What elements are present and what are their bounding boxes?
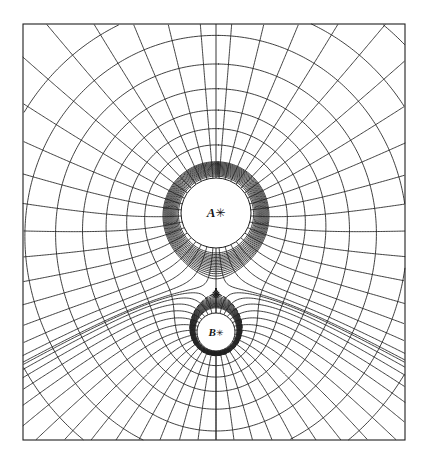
charge-b-label: B✳ — [209, 326, 224, 338]
charge-a-letter: A — [207, 205, 216, 220]
neutral-point-core — [215, 293, 218, 296]
charge-b-star-icon: ✳ — [216, 328, 224, 338]
field-diagram-figure: A✳ B✳ — [0, 0, 430, 465]
field-diagram-canvas — [0, 0, 430, 465]
charge-a-label: A✳ — [207, 205, 226, 221]
charge-a-star-icon: ✳ — [215, 206, 225, 220]
